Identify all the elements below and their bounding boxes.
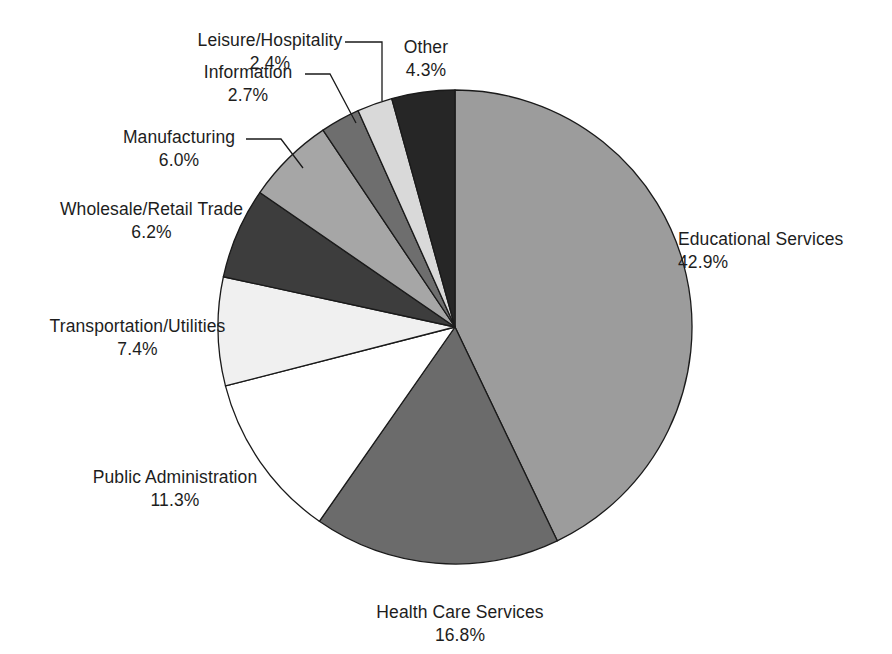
slice-label-pct: 11.3% bbox=[70, 489, 280, 512]
slice-label-public-administration: Public Administration 11.3% bbox=[70, 466, 280, 512]
slice-label-manufacturing: Manufacturing 6.0% bbox=[118, 126, 240, 172]
slice-label-other: Other 4.3% bbox=[381, 36, 471, 82]
slice-label-name: Wholesale/Retail Trade bbox=[44, 198, 259, 221]
slice-label-educational-services: Educational Services 42.9% bbox=[678, 228, 843, 274]
pie-chart-figure: Educational Services 42.9%Health Care Se… bbox=[0, 0, 892, 654]
slice-label-name: Public Administration bbox=[70, 466, 280, 489]
slice-label-name: Other bbox=[381, 36, 471, 59]
slice-label-transportation-utilities: Transportation/Utilities 7.4% bbox=[30, 315, 245, 361]
slice-label-wholesale-retail-trade: Wholesale/Retail Trade 6.2% bbox=[44, 198, 259, 244]
pie-slices-group: Educational Services 42.9%Health Care Se… bbox=[218, 90, 692, 564]
slice-label-health-care-services: Health Care Services 16.8% bbox=[335, 601, 585, 647]
slice-label-pct: 6.2% bbox=[44, 221, 259, 244]
slice-label-pct: 42.9% bbox=[678, 251, 843, 274]
slice-label-pct: 16.8% bbox=[335, 624, 585, 647]
slice-label-pct: 4.3% bbox=[381, 59, 471, 82]
slice-label-pct: 7.4% bbox=[30, 338, 245, 361]
slice-label-name: Health Care Services bbox=[335, 601, 585, 624]
slice-label-pct: 2.7% bbox=[197, 84, 299, 107]
slice-label-name: Leisure/Hospitality bbox=[196, 29, 344, 52]
leader-line-leisure-hospitality bbox=[345, 42, 382, 101]
slice-label-pct: 6.0% bbox=[118, 149, 240, 172]
slice-label-name: Manufacturing bbox=[118, 126, 240, 149]
slice-label-pct: 2.4% bbox=[196, 52, 344, 75]
slice-label-name: Transportation/Utilities bbox=[30, 315, 245, 338]
slice-label-leisure-hospitality: Leisure/Hospitality 2.4% bbox=[196, 29, 344, 75]
slice-label-name: Educational Services bbox=[678, 228, 843, 251]
